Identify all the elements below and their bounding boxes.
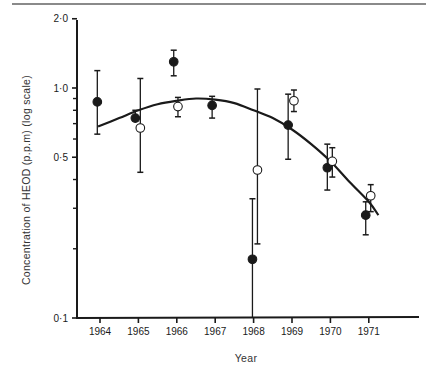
y-tick-label: 1·0 xyxy=(54,83,69,94)
x-tick-label: 1967 xyxy=(204,326,227,337)
error-bars xyxy=(94,50,373,318)
data-points xyxy=(93,57,375,263)
x-tick-label: 1965 xyxy=(127,326,150,337)
x-axis-title: Year xyxy=(235,352,258,364)
y-tick-label: 0·5 xyxy=(54,152,69,163)
filled-circle-marker xyxy=(93,98,102,107)
x-tick-label: 1968 xyxy=(242,326,265,337)
y-axis-title: Concentration of HEOD (p.p.m) (log scale… xyxy=(20,75,32,285)
open-circle-marker xyxy=(253,166,262,175)
x-tick-label: 1971 xyxy=(358,326,381,337)
filled-circle-marker xyxy=(284,121,293,130)
x-tick-label: 1966 xyxy=(166,326,189,337)
filled-circle-marker xyxy=(208,101,217,110)
filled-circle-marker xyxy=(361,211,370,220)
open-circle-marker xyxy=(366,191,375,200)
hedo-concentration-chart: 2·01·00·50·11964196519661967196819691970… xyxy=(0,0,432,378)
open-circle-marker xyxy=(290,96,299,105)
axes: 2·01·00·50·11964196519661967196819691970… xyxy=(54,13,419,337)
filled-circle-marker xyxy=(248,255,257,264)
open-circle-marker xyxy=(136,124,145,133)
y-tick-label: 0·1 xyxy=(54,313,69,324)
x-tick-label: 1969 xyxy=(281,326,304,337)
filled-circle-marker xyxy=(169,57,178,66)
open-circle-marker xyxy=(174,102,183,111)
x-axis-line xyxy=(76,317,419,318)
x-tick-label: 1964 xyxy=(89,326,112,337)
open-circle-marker xyxy=(328,157,337,166)
x-tick-label: 1970 xyxy=(319,326,342,337)
y-tick-label: 2·0 xyxy=(54,13,69,24)
filled-circle-marker xyxy=(131,114,140,123)
